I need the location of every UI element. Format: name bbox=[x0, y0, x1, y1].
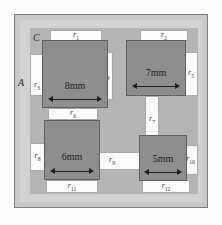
route-r7-label: r7 bbox=[146, 115, 158, 125]
block-8mm[interactable]: 8mm bbox=[42, 40, 108, 108]
route-r8[interactable]: r8 bbox=[30, 143, 45, 171]
route-r11-label: r11 bbox=[47, 181, 97, 191]
block-8mm-dimension bbox=[48, 96, 102, 103]
block-6mm-label: 6mm bbox=[45, 151, 99, 162]
block-7mm[interactable]: 7mm bbox=[126, 40, 186, 96]
region-label-a: A bbox=[18, 78, 24, 88]
figure-canvas: A B C D r1 r2 r3 r4 r5 r6 r7 r8 r9 r10 r… bbox=[0, 0, 222, 225]
block-7mm-label: 7mm bbox=[127, 67, 185, 78]
route-r11[interactable]: r11 bbox=[46, 180, 98, 193]
route-r6-label: r6 bbox=[49, 109, 97, 119]
route-r8-label: r8 bbox=[31, 152, 44, 162]
route-r6[interactable]: r6 bbox=[48, 108, 98, 120]
block-6mm-dimension bbox=[50, 168, 94, 175]
block-5mm-label: 5mm bbox=[140, 153, 186, 164]
region-label-c: C bbox=[33, 33, 40, 43]
block-5mm[interactable]: 5mm bbox=[139, 135, 187, 181]
block-7mm-dimension bbox=[132, 83, 180, 90]
block-5mm-dimension bbox=[144, 169, 182, 176]
route-r5-label: r5 bbox=[185, 69, 197, 79]
route-r12[interactable]: r12 bbox=[142, 180, 190, 193]
route-r5[interactable]: r5 bbox=[184, 52, 198, 96]
block-8mm-label: 8mm bbox=[43, 80, 107, 91]
block-6mm[interactable]: 6mm bbox=[44, 120, 100, 180]
route-r12-label: r12 bbox=[143, 181, 189, 191]
